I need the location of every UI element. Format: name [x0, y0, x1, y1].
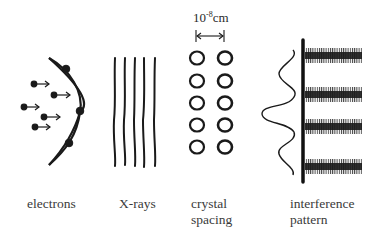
atom-circle: [190, 141, 204, 154]
crystal-panel: [190, 30, 232, 154]
label-line: crystal: [191, 196, 232, 212]
arc-dot: [76, 107, 84, 115]
label-electrons: electrons: [27, 196, 76, 212]
x-rays-panel: [114, 58, 155, 167]
label-line: spacing: [191, 212, 232, 228]
fringe-band: [305, 87, 362, 102]
x-ray-line: [124, 58, 125, 165]
scale-bar-label: 10-8cm: [193, 10, 229, 26]
electrons-panel: [21, 58, 84, 165]
electron-arrow: [21, 104, 39, 110]
crystal-atoms-left: [190, 52, 204, 154]
atom-circle: [190, 119, 204, 132]
x-ray-line: [154, 58, 155, 166]
scale-unit: cm: [213, 10, 229, 25]
label-line: X-rays: [119, 196, 156, 212]
fringe-band: [305, 119, 362, 134]
atom-circle: [190, 75, 204, 88]
label-interference-pattern: interference pattern: [290, 196, 354, 228]
intensity-wave: [262, 50, 295, 175]
label-line: pattern: [290, 212, 354, 228]
electron-arrow: [41, 114, 60, 120]
atom-circle: [218, 97, 232, 110]
x-ray-line: [114, 58, 115, 166]
label-line: interference: [290, 196, 354, 212]
interference-panel: [262, 40, 362, 182]
arc-dot: [62, 65, 70, 73]
fringe-bands: [305, 48, 362, 174]
scale-bar: [196, 30, 224, 42]
label-line: electrons: [27, 196, 76, 212]
label-x-rays: X-rays: [119, 196, 156, 212]
electron-arrow: [32, 124, 50, 130]
atom-circle: [218, 52, 232, 65]
x-ray-line: [134, 58, 135, 166]
arc-dot: [65, 139, 73, 147]
fringe-band: [305, 48, 362, 63]
electron-arrow: [31, 81, 49, 87]
atom-circle: [218, 75, 232, 88]
x-ray-line: [143, 58, 144, 167]
scale-exponent: -8: [206, 10, 213, 19]
atom-circle: [190, 52, 204, 65]
label-crystal-spacing: crystal spacing: [191, 196, 232, 228]
electron-arrow: [51, 92, 70, 98]
scale-base: 10: [193, 10, 206, 25]
fringe-band: [305, 159, 362, 174]
atom-circle: [190, 97, 204, 110]
atom-circle: [218, 141, 232, 154]
crystal-atoms-right: [218, 52, 232, 154]
electron-arrows: [21, 81, 70, 130]
atom-circle: [218, 119, 232, 132]
